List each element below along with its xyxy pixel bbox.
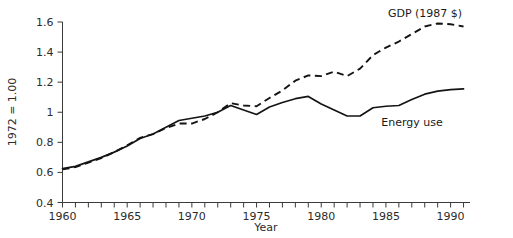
- y-axis-tick-labels: 0.40.60.811.21.41.6: [36, 16, 54, 210]
- line-chart: 0.40.60.811.21.41.6 1972 = 1.00 19601965…: [0, 0, 513, 238]
- y-tick-label: 0.6: [36, 166, 54, 179]
- y-axis: 0.40.60.811.21.41.6 1972 = 1.00: [6, 16, 63, 210]
- energy-label: Energy use: [381, 116, 443, 129]
- x-tick-label: 1980: [307, 210, 335, 223]
- x-tick-label: 1985: [372, 210, 400, 223]
- x-tick-label: 1970: [178, 210, 206, 223]
- x-tick-label: 1960: [49, 210, 77, 223]
- y-tick-label: 1: [47, 106, 54, 119]
- y-axis-title: 1972 = 1.00: [6, 78, 19, 147]
- data-series-group: [63, 24, 464, 170]
- y-tick-label: 1.4: [36, 46, 54, 59]
- y-axis-ticks: [58, 22, 63, 203]
- y-tick-label: 0.8: [36, 136, 54, 149]
- y-tick-label: 0.4: [36, 197, 54, 210]
- y-tick-label: 1.6: [36, 16, 54, 29]
- x-tick-label: 1990: [437, 210, 465, 223]
- y-tick-label: 1.2: [36, 76, 54, 89]
- series-annotations: GDP (1987 $)Energy use: [381, 7, 462, 129]
- gdp-label: GDP (1987 $): [388, 7, 462, 20]
- chart-container: 0.40.60.811.21.41.6 1972 = 1.00 19601965…: [0, 0, 513, 238]
- x-axis-title: Year: [253, 221, 278, 234]
- x-tick-label: 1965: [113, 210, 141, 223]
- x-axis: 1960196519701975198019851990 Year: [49, 203, 471, 235]
- x-axis-ticks: [63, 203, 464, 208]
